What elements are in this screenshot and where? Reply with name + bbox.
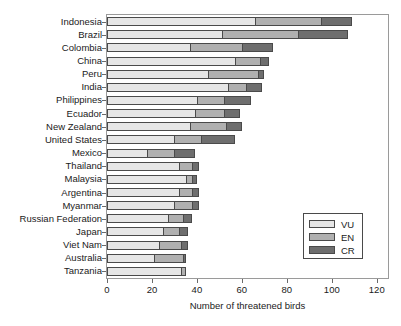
bar-segment-cr [192,201,199,210]
bar-segment-vu [107,227,163,236]
y-axis-tick [102,140,106,141]
y-axis-tick [102,74,106,75]
bar-segment-cr [192,188,199,197]
y-axis-tick [102,245,106,246]
bar-row [107,162,199,171]
y-axis-label: Argentina [0,188,102,198]
y-axis-label: Tanzania [0,266,102,276]
x-axis-tick [332,279,333,283]
bar-segment-en [174,201,192,210]
y-axis-label: Australia [0,253,102,263]
bar-segment-en [222,30,298,39]
y-axis-label: Indonesia [0,17,102,27]
bar-segment-en [168,214,184,223]
chart-legend: VUENCR [303,213,363,259]
y-axis-label: China [0,56,102,66]
x-axis-tick [152,279,153,283]
y-axis-tick [102,219,106,220]
bar-row [107,227,188,236]
y-axis-tick [102,271,106,272]
y-axis-label: Viet Nam [0,240,102,250]
bar-segment-vu [107,70,208,79]
bar-segment-vu [107,83,228,92]
bar-segment-en [179,162,192,171]
x-axis-tick-label: 80 [282,284,293,295]
y-axis-tick [102,48,106,49]
y-axis-tick [102,127,106,128]
bar-segment-vu [107,149,147,158]
y-axis-tick [102,232,106,233]
bar-segment-cr [181,241,188,250]
legend-item-en: EN [309,231,357,243]
bar-segment-vu [107,267,181,276]
y-axis-tick [102,258,106,259]
bar-segment-en [195,109,224,118]
legend-swatch-en [309,233,335,241]
bar-segment-en [154,254,183,263]
y-axis-label: Russian Federation [0,214,102,224]
bar-segment-vu [107,122,190,131]
x-axis-tick [287,279,288,283]
bar-row [107,122,242,131]
bar-row [107,109,240,118]
y-axis-label: New Zealand [0,122,102,132]
bar-segment-cr [258,70,265,79]
bar-segment-en [197,96,224,105]
bar-segment-vu [107,109,195,118]
bar-segment-en [228,83,246,92]
bar-segment-en [255,17,320,26]
bar-segment-cr [183,214,192,223]
bar-segment-en [186,175,193,184]
y-axis-tick [102,61,106,62]
bar-segment-cr [260,57,269,66]
y-axis-label: Peru [0,69,102,79]
legend-item-vu: VU [309,218,357,230]
bar-segment-vu [107,135,174,144]
bar-segment-en [190,122,226,131]
x-axis-tick-label: 60 [237,284,248,295]
y-axis-label: Brazil [0,30,102,40]
bar-segment-en [208,70,257,79]
bar-row [107,17,352,26]
bar-row [107,83,262,92]
bar-row [107,188,199,197]
y-axis-label: Ecuador [0,109,102,119]
bar-segment-vu [107,175,186,184]
legend-swatch-cr [309,246,335,254]
bar-segment-vu [107,30,222,39]
x-axis-tick-label: 20 [147,284,158,295]
y-axis-label: Philippines [0,95,102,105]
y-axis-label: Colombia [0,43,102,53]
bar-row [107,254,186,263]
bar-row [107,149,195,158]
bar-row [107,201,199,210]
bar-segment-vu [107,201,174,210]
y-axis-label: India [0,82,102,92]
bar-row [107,241,188,250]
x-axis-tick [377,279,378,283]
bar-segment-cr [192,175,196,184]
y-axis-tick [102,153,106,154]
bar-segment-vu [107,96,197,105]
bar-row [107,175,197,184]
y-axis-tick [102,166,106,167]
bar-segment-en [190,43,242,52]
y-axis-category-labels: IndonesiaBrazilColombiaChinaPeruIndiaPhi… [0,15,102,278]
y-axis-tick [102,87,106,88]
bar-segment-cr [321,17,352,26]
bar-segment-cr [224,109,240,118]
bar-row [107,96,251,105]
y-axis-label: Myanmar [0,201,102,211]
y-axis-tick [102,100,106,101]
legend-swatch-vu [309,220,335,228]
legend-label: VU [341,220,354,229]
legend-label: EN [341,233,354,242]
x-axis-tick [197,279,198,283]
legend-label: CR [341,246,355,255]
x-axis-tick-label: 0 [104,284,109,295]
y-axis-label: Japan [0,227,102,237]
bar-segment-cr [183,254,185,263]
bar-segment-vu [107,162,179,171]
y-axis-tick [102,179,106,180]
bar-segment-cr [179,227,188,236]
